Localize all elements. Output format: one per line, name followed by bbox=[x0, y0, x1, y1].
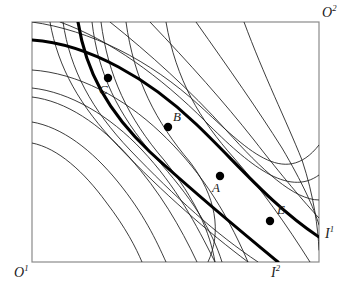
point-label-a: A bbox=[212, 181, 220, 194]
point-dot-b bbox=[164, 123, 172, 131]
point-label-e: E bbox=[277, 203, 285, 216]
point-label-c: C bbox=[99, 83, 108, 96]
edgeworth-box-figure: O1 O2 I1 I2 C B A E bbox=[0, 0, 354, 295]
point-label-b: B bbox=[173, 110, 181, 123]
point-dot-a bbox=[216, 172, 224, 180]
curve-i2-label: I2 bbox=[271, 264, 280, 280]
curve-i1-label: I1 bbox=[325, 225, 334, 241]
box-frame bbox=[32, 22, 319, 262]
origin-1-label: O1 bbox=[14, 264, 28, 280]
point-dot-e bbox=[266, 217, 274, 225]
point-dot-c bbox=[104, 74, 112, 82]
edgeworth-box-diagram bbox=[0, 0, 354, 295]
origin-2-label: O2 bbox=[322, 4, 336, 20]
